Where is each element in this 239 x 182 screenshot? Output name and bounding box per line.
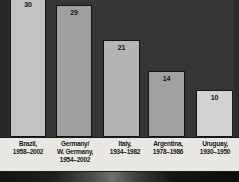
category-label-band: Brazil, 1958–2002 Germany/ W. Germany, 1… bbox=[0, 137, 239, 172]
bar-uruguay: 10 bbox=[196, 90, 233, 137]
category-label-uruguay: Uruguay, 1930–1950 bbox=[191, 140, 239, 156]
plot-right-shade bbox=[234, 0, 239, 137]
bar-chart: 30 29 21 14 10 Brazil, 1958–2002 Germany… bbox=[0, 0, 239, 182]
category-label-germany: Germany/ W. Germany, 1954–2002 bbox=[46, 140, 104, 165]
category-label-italy: Italy, 1934–1982 bbox=[104, 140, 146, 156]
bar-brazil: 30 bbox=[10, 0, 46, 137]
bar-value-argentina: 14 bbox=[149, 75, 184, 83]
bar-value-italy: 21 bbox=[104, 44, 139, 52]
bar-value-germany: 29 bbox=[57, 9, 91, 17]
bar-italy: 21 bbox=[103, 40, 140, 137]
bar-value-uruguay: 10 bbox=[197, 94, 232, 102]
category-label-argentina: Argentina, 1978–1986 bbox=[143, 140, 193, 156]
plot-left-shade bbox=[0, 0, 9, 137]
page-bottom-edge bbox=[0, 172, 239, 182]
bar-germany: 29 bbox=[56, 5, 92, 137]
plot-area: 30 29 21 14 10 bbox=[0, 0, 239, 137]
bar-argentina: 14 bbox=[148, 71, 185, 137]
bar-value-brazil: 30 bbox=[11, 1, 45, 9]
